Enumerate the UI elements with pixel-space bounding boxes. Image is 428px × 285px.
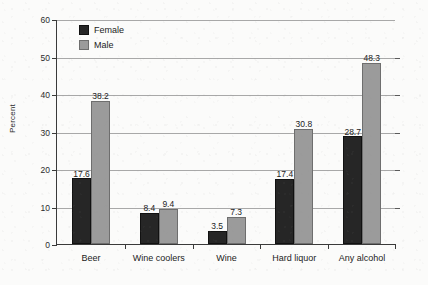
bar-label-wine-female: 3.5 [211, 222, 223, 231]
x-tick-5 [395, 244, 396, 249]
y-axis-label-60: 60 [41, 16, 50, 25]
bar-group-wine-coolers: 8.4 9.4 Wine coolers [125, 20, 193, 244]
y-axis-title: Percent [8, 104, 17, 133]
x-category-label-any-alcohol: Any alcohol [339, 254, 386, 263]
bar-wine-female[interactable]: 3.5 [208, 231, 227, 244]
bar-any-alcohol-female[interactable]: 28.7 [343, 136, 362, 244]
bar-group-hard-liquor: 17.4 30.8 Hard liquor [260, 20, 328, 244]
bar-wine-male[interactable]: 7.3 [227, 217, 246, 244]
x-tick-2 [193, 244, 194, 249]
x-category-label-wine: Wine [216, 254, 237, 263]
x-category-label-wine-coolers: Wine coolers [133, 254, 185, 263]
bar-label-beer-female: 17.6 [73, 170, 90, 179]
bar-group-wine: 3.5 7.3 Wine [193, 20, 261, 244]
plot-area: 60 50 40 30 20 10 0 Female Male 17.6 [56, 20, 395, 245]
bar-label-any-alcohol-female: 28.7 [344, 128, 361, 137]
bar-group-any-alcohol: 28.7 48.3 Any alcohol [328, 20, 396, 244]
bar-beer-male[interactable]: 38.2 [91, 101, 110, 244]
bar-hard-liquor-female[interactable]: 17.4 [275, 179, 294, 244]
bar-beer-female[interactable]: 17.6 [72, 178, 91, 244]
y-axis-label-10: 10 [41, 203, 50, 212]
y-axis-label-50: 50 [41, 53, 50, 62]
bar-label-beer-male: 38.2 [92, 92, 109, 101]
x-category-label-hard-liquor: Hard liquor [272, 254, 316, 263]
chart-page: Percent 60 50 40 30 20 10 0 Female [0, 0, 428, 285]
bar-label-wine-male: 7.3 [230, 208, 242, 217]
y-axis-label-20: 20 [41, 166, 50, 175]
bar-any-alcohol-male[interactable]: 48.3 [362, 63, 381, 244]
bar-label-wine-coolers-male: 9.4 [162, 200, 174, 209]
y-tick-0 [52, 245, 57, 246]
x-tick-4 [328, 244, 329, 249]
bar-wine-coolers-female[interactable]: 8.4 [140, 213, 159, 245]
x-category-label-beer: Beer [81, 254, 100, 263]
y-axis-label-30: 30 [41, 128, 50, 137]
x-tick-3 [260, 244, 261, 249]
bar-hard-liquor-male[interactable]: 30.8 [294, 129, 313, 245]
bar-label-hard-liquor-male: 30.8 [296, 120, 313, 129]
bar-wine-coolers-male[interactable]: 9.4 [159, 209, 178, 244]
bar-label-hard-liquor-female: 17.4 [277, 170, 294, 179]
bar-group-beer: 17.6 38.2 Beer [57, 20, 125, 244]
x-tick-1 [125, 244, 126, 249]
bar-label-any-alcohol-male: 48.3 [363, 54, 380, 63]
y-axis-label-0: 0 [45, 241, 50, 250]
y-axis-label-40: 40 [41, 91, 50, 100]
bar-label-wine-coolers-female: 8.4 [143, 204, 155, 213]
